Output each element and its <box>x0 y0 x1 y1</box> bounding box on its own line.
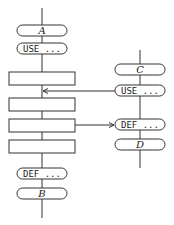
terminal-def-left: DEF ... <box>17 168 67 179</box>
terminal-a-label: A <box>37 25 45 36</box>
process-box-3 <box>9 119 75 132</box>
terminal-b: B <box>17 188 67 199</box>
terminal-use-left-label: USE ... <box>23 44 61 54</box>
terminal-d: D <box>115 139 165 150</box>
process-box-1 <box>9 72 75 85</box>
terminal-b-label: B <box>37 188 45 199</box>
process-box-4 <box>9 140 75 153</box>
arrow-process-to-def <box>75 123 114 128</box>
process-box-2 <box>9 98 75 111</box>
arrow-use-to-left <box>43 89 115 94</box>
terminal-c-label: C <box>136 64 144 75</box>
terminal-use-right: USE ... <box>115 85 165 96</box>
terminal-def-left-label: DEF ... <box>23 169 61 179</box>
flowchart-diagram: A USE ... DEF ... B C USE ... DEF ... D <box>0 0 174 225</box>
terminal-def-right-label: DEF ... <box>121 120 159 130</box>
terminal-d-label: D <box>135 139 144 150</box>
terminal-a: A <box>17 25 67 36</box>
terminal-use-right-label: USE ... <box>121 86 159 96</box>
terminal-def-right: DEF ... <box>115 119 165 130</box>
terminal-c: C <box>115 64 165 75</box>
terminal-use-left: USE ... <box>17 43 67 54</box>
